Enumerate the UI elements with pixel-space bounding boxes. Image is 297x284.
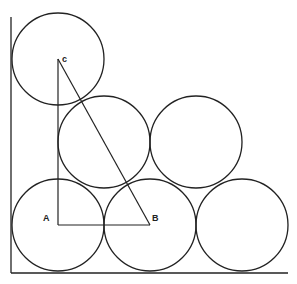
segment-cb-hypotenuse	[58, 59, 150, 225]
circle-packing-figure: A B c	[0, 0, 297, 284]
circle-bottom-right	[196, 179, 288, 271]
label-a: A	[43, 213, 50, 223]
circles-group	[12, 13, 288, 271]
label-b: B	[152, 213, 159, 223]
circle-middle-right	[150, 96, 242, 188]
diagram-canvas: A B c	[0, 0, 297, 284]
label-c: c	[62, 54, 67, 64]
